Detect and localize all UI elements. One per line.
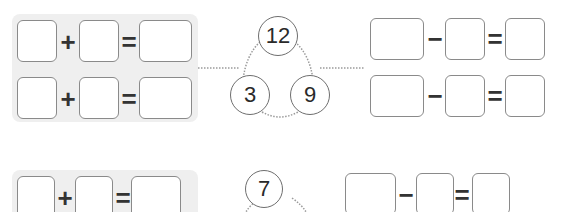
whole-circle: 7 (245, 170, 283, 208)
sum-box-3[interactable] (131, 176, 181, 212)
addend-box-1a[interactable] (17, 20, 57, 62)
addend-box-2b[interactable] (79, 77, 119, 119)
whole-circle: 12 (258, 16, 298, 56)
subtrahend-box-2[interactable] (445, 75, 485, 117)
part-circle-left: 3 (230, 75, 270, 115)
addend-box-3a[interactable] (17, 176, 55, 212)
equals-sign: = (454, 182, 470, 208)
equals-sign: = (121, 29, 137, 55)
sum-box-2[interactable] (139, 77, 192, 119)
plus-sign: + (57, 185, 73, 211)
minuend-box-1[interactable] (370, 18, 424, 60)
plus-sign: + (60, 29, 76, 55)
subtrahend-box-1[interactable] (445, 18, 485, 60)
sum-box-1[interactable] (139, 20, 192, 62)
difference-box-2[interactable] (505, 75, 545, 117)
difference-box-1[interactable] (505, 18, 545, 60)
equals-sign: = (115, 185, 131, 211)
equals-sign: = (487, 83, 503, 109)
addend-box-1b[interactable] (79, 20, 119, 62)
plus-sign: + (60, 86, 76, 112)
difference-box-3[interactable] (472, 173, 510, 212)
minus-sign: − (427, 83, 443, 109)
equals-sign: = (487, 26, 503, 52)
addend-box-3b[interactable] (75, 176, 113, 212)
minus-sign: − (398, 182, 414, 208)
minus-sign: − (427, 26, 443, 52)
minuend-box-2[interactable] (370, 75, 424, 117)
equals-sign: = (121, 86, 137, 112)
minuend-box-3[interactable] (345, 173, 396, 212)
subtrahend-box-3[interactable] (416, 173, 454, 212)
part-circle-right: 9 (290, 75, 330, 115)
addend-box-2a[interactable] (17, 77, 57, 119)
